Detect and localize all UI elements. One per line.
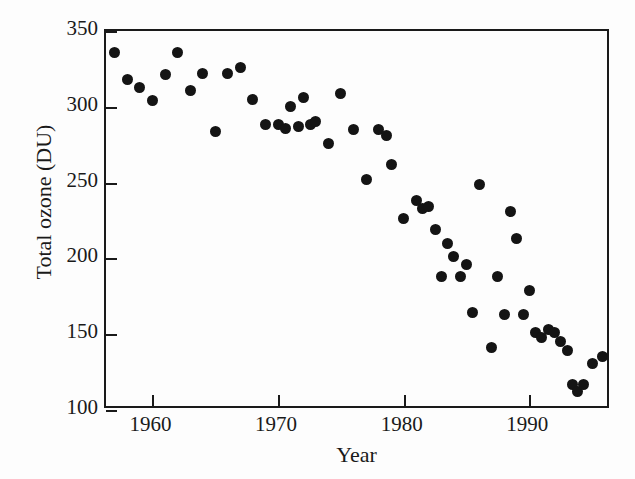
data-point	[562, 345, 573, 356]
data-point	[386, 159, 397, 170]
data-point	[122, 74, 133, 85]
data-point	[578, 379, 589, 390]
ozone-scatter-figure: 100150200250300350 1960197019801990 Tota…	[0, 0, 635, 479]
data-point	[197, 68, 208, 79]
data-point	[442, 238, 453, 249]
data-point	[511, 233, 522, 244]
data-point	[436, 271, 447, 282]
data-point	[160, 69, 171, 80]
data-point	[361, 174, 372, 185]
data-point	[298, 92, 309, 103]
data-point	[486, 342, 497, 353]
data-point	[448, 251, 459, 262]
data-point	[461, 259, 472, 270]
data-point	[430, 224, 441, 235]
y-tick-label-100: 100	[28, 397, 98, 418]
x-tick-label-1990: 1990	[482, 414, 572, 435]
x-axis-title: Year	[104, 443, 609, 467]
data-point	[597, 351, 608, 362]
x-tick-label-1960: 1960	[105, 414, 195, 435]
y-axis-title: Total ozone (DU)	[32, 72, 56, 332]
data-point	[423, 201, 434, 212]
data-point	[499, 309, 510, 320]
data-point	[518, 309, 529, 320]
data-point	[185, 85, 196, 96]
data-point	[293, 121, 304, 132]
data-point	[210, 126, 221, 137]
x-tick-label-1970: 1970	[231, 414, 321, 435]
data-point	[147, 95, 158, 106]
data-point	[455, 271, 466, 282]
y-tick-100	[106, 410, 117, 412]
x-axis-tick-labels: 1960197019801990	[104, 414, 609, 442]
x-tick-label-1980: 1980	[357, 414, 447, 435]
scatter-points-layer	[106, 31, 607, 406]
data-point	[260, 119, 271, 130]
data-point	[247, 94, 258, 105]
data-point	[381, 130, 392, 141]
data-point	[492, 271, 503, 282]
data-point	[285, 101, 296, 112]
data-point	[587, 358, 598, 369]
data-point	[467, 307, 478, 318]
plot-area	[104, 29, 609, 408]
data-point	[474, 179, 485, 190]
data-point	[323, 138, 334, 149]
data-point	[235, 62, 246, 73]
data-point	[524, 285, 535, 296]
y-tick-label-350: 350	[28, 18, 98, 39]
data-point	[310, 116, 321, 127]
data-point	[172, 47, 183, 58]
data-point	[505, 206, 516, 217]
data-point	[398, 213, 409, 224]
data-point	[280, 123, 291, 134]
data-point	[134, 82, 145, 93]
data-point	[348, 124, 359, 135]
data-point	[222, 68, 233, 79]
data-point	[109, 47, 120, 58]
data-point	[335, 88, 346, 99]
